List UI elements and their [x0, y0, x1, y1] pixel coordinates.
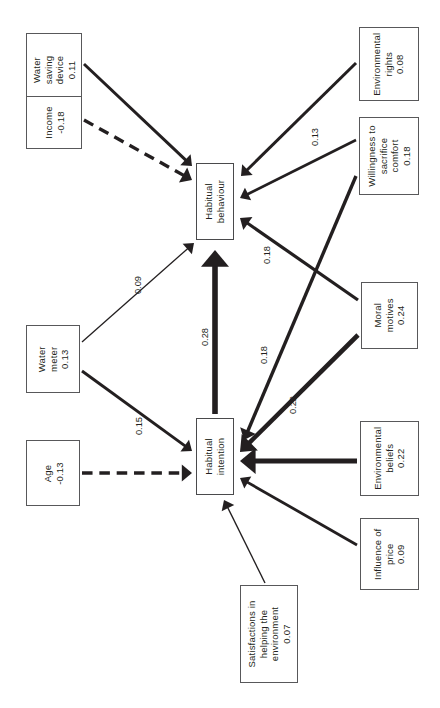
node-text-line: helping the	[258, 601, 270, 668]
edge-line	[82, 248, 188, 342]
edge-arrowhead	[180, 440, 192, 452]
edge-e-mm-hb	[240, 217, 358, 300]
node-text-line: 0.13	[59, 346, 71, 372]
edge-line	[82, 371, 186, 446]
node-habitual-intention: Habitualintention	[196, 418, 234, 495]
node-text-line: Income	[42, 106, 54, 138]
edge-coefficient-e-wil-hi: 0.18	[259, 346, 269, 364]
node-habitual-behaviour: Habitualbehaviour	[196, 163, 234, 240]
node-label-habitual-behaviour: Habitualbehaviour	[204, 180, 227, 223]
node-label-water-saving-device: Watersavingdevice0.11	[31, 55, 77, 84]
edge-arrowhead	[240, 448, 256, 474]
node-text-line: comfort	[389, 125, 401, 186]
node-text-line: Environmental	[372, 32, 384, 95]
node-text-line: 0.22	[395, 427, 407, 490]
node-label-environmental-beliefs: Environmentalbeliefs0.22	[372, 427, 407, 490]
node-text-line: beliefs	[384, 427, 396, 490]
edge-line	[227, 507, 265, 583]
edge-line	[247, 482, 357, 545]
node-environmental-rights: Environmentalrights0.08	[359, 27, 419, 101]
node-text-line: Water	[31, 55, 43, 84]
edge-line	[247, 140, 356, 195]
node-text-line: motives	[384, 298, 396, 332]
node-text-line: Water	[36, 346, 48, 372]
node-text-line: saving	[42, 55, 54, 84]
edge-coefficient-e-wil-hb: 0.13	[310, 128, 320, 146]
node-label-water-meter: Watermeter0.13	[36, 346, 71, 372]
node-income: Income-0.18	[26, 96, 82, 149]
node-label-moral-motives: Moralmotives0.24	[372, 298, 407, 332]
node-text-line: meter	[47, 346, 59, 372]
node-text-line: 0.08	[395, 32, 407, 95]
node-text-line: Environmental	[372, 427, 384, 490]
node-label-environmental-rights: Environmentalrights0.08	[372, 32, 407, 95]
node-text-line: environment	[269, 601, 281, 668]
edge-e-er-hb	[241, 63, 356, 176]
node-text-line: -0.18	[54, 106, 66, 138]
edge-arrowhead	[183, 243, 194, 254]
edge-e-wil-hb	[240, 140, 356, 200]
edge-arrowhead	[182, 465, 192, 482]
node-satisfactions: Satisfactions inhelping theenvironment0.…	[240, 585, 298, 683]
edge-e-sat-hi	[222, 500, 265, 583]
node-environmental-beliefs: Environmentalbeliefs0.22	[360, 421, 419, 496]
node-text-line: Satisfactions in	[246, 601, 258, 668]
node-label-satisfactions: Satisfactions inhelping theenvironment0.…	[246, 601, 292, 668]
edge-line	[84, 64, 186, 161]
edge-coefficient-e-mm-hb: 0.18	[262, 246, 272, 264]
node-moral-motives: Moralmotives0.24	[361, 282, 418, 349]
node-label-income: Income-0.18	[42, 106, 65, 138]
node-text-line: price	[384, 528, 396, 579]
node-text-line: 0.07	[281, 601, 293, 668]
node-water-meter: Watermeter0.13	[26, 325, 80, 393]
node-text-line: Habitual	[204, 180, 216, 223]
edge-coefficient-e-mm-hi: 0.22	[288, 396, 298, 414]
edge-coefficient-e-wm-hb: 0.09	[133, 276, 143, 294]
node-text-line: 0.11	[65, 55, 77, 84]
node-text-line: 0.24	[395, 298, 407, 332]
node-age: Age-0.13	[26, 440, 80, 506]
node-text-line: behaviour	[215, 180, 227, 223]
edge-e-wm-hi	[82, 371, 192, 452]
node-text-line: device	[54, 55, 66, 84]
edge-e-eb-hi	[240, 448, 357, 474]
node-text-line: 0.18	[401, 125, 413, 186]
edge-e-age-hi	[82, 465, 192, 482]
node-text-line: intention	[215, 438, 227, 476]
node-text-line: Willingness to	[366, 125, 378, 186]
node-text-line: Influence of	[372, 528, 384, 579]
edge-coefficient-e-wm-hi: 0.15	[134, 417, 144, 435]
node-text-line: sacrifice	[378, 125, 390, 186]
node-willingness: Willingness tosacrificecomfort0.18	[359, 117, 419, 195]
edge-e-wil-hi	[240, 176, 356, 440]
node-text-line: -0.13	[53, 462, 65, 485]
node-label-influence-of-price: Influence ofprice0.09	[372, 528, 407, 579]
node-text-line: Age	[41, 462, 53, 485]
node-label-age: Age-0.13	[41, 462, 64, 485]
node-text-line: Habitual	[204, 438, 216, 476]
edge-line	[247, 63, 356, 171]
path-diagram-figure: Watersavingdevice0.11Income-0.18Watermet…	[0, 0, 440, 708]
edge-e-mm-hi	[240, 335, 358, 452]
node-text-line: Moral	[372, 298, 384, 332]
edge-line	[84, 120, 184, 176]
edge-coefficient-e-hi-hb: 0.28	[200, 328, 210, 346]
edge-arrowhead	[201, 250, 229, 267]
node-influence-of-price: Influence ofprice0.09	[360, 518, 419, 590]
node-text-line: rights	[383, 32, 395, 95]
node-label-habitual-intention: Habitualintention	[204, 438, 227, 476]
edge-e-iop-hi	[240, 476, 357, 545]
node-text-line: 0.09	[395, 528, 407, 579]
node-label-willingness: Willingness tosacrificecomfort0.18	[366, 125, 412, 186]
